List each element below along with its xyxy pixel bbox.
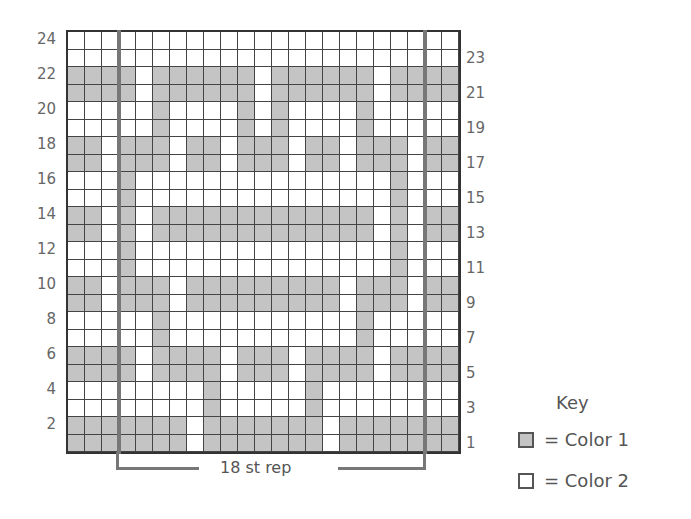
chart-cell <box>85 312 102 330</box>
chart-cell <box>323 365 340 383</box>
chart-cell <box>204 50 221 68</box>
chart-cell <box>323 400 340 418</box>
chart-cell <box>221 382 238 400</box>
chart-cell <box>306 365 323 383</box>
chart-cell <box>340 172 357 190</box>
chart-cell <box>442 417 459 435</box>
row-number-label: 10 <box>22 275 56 293</box>
chart-cell <box>357 295 374 313</box>
chart-cell <box>272 260 289 278</box>
chart-cell <box>170 347 187 365</box>
chart-cell <box>391 50 408 68</box>
chart-cell <box>391 435 408 453</box>
chart-cell <box>187 190 204 208</box>
chart-cell <box>136 120 153 138</box>
chart-cell <box>119 417 136 435</box>
chart-cell <box>306 137 323 155</box>
chart-cell <box>272 120 289 138</box>
chart-cell <box>68 102 85 120</box>
row-number-label: 21 <box>466 84 500 102</box>
chart-cell <box>170 120 187 138</box>
chart-cell <box>425 207 442 225</box>
chart-cell <box>425 190 442 208</box>
chart-cell <box>170 50 187 68</box>
chart-cell <box>187 172 204 190</box>
chart-cell <box>119 277 136 295</box>
chart-cell <box>357 137 374 155</box>
chart-cell <box>289 277 306 295</box>
chart-cell <box>289 207 306 225</box>
chart-cell <box>204 102 221 120</box>
chart-cell <box>170 435 187 453</box>
chart-cell <box>357 242 374 260</box>
chart-cell <box>136 85 153 103</box>
chart-cell <box>255 330 272 348</box>
chart-cell <box>136 400 153 418</box>
chart-cell <box>289 400 306 418</box>
chart-cell <box>68 207 85 225</box>
chart-cell <box>119 172 136 190</box>
chart-cell <box>153 225 170 243</box>
chart-cell <box>323 225 340 243</box>
chart-cell <box>136 207 153 225</box>
chart-cell <box>85 365 102 383</box>
chart-cell <box>323 155 340 173</box>
chart-cell <box>119 190 136 208</box>
chart-cell <box>323 347 340 365</box>
chart-cell <box>221 347 238 365</box>
chart-cell <box>374 400 391 418</box>
chart-cell <box>221 102 238 120</box>
chart-cell <box>221 207 238 225</box>
chart-cell <box>289 435 306 453</box>
chart-cell <box>374 365 391 383</box>
chart-cell <box>153 347 170 365</box>
chart-cell <box>442 137 459 155</box>
chart-cell <box>221 225 238 243</box>
chart-cell <box>306 347 323 365</box>
chart-cell <box>289 137 306 155</box>
chart-cell <box>238 295 255 313</box>
chart-cell <box>442 400 459 418</box>
chart-cell <box>255 120 272 138</box>
chart-cell <box>442 312 459 330</box>
chart-cell <box>68 190 85 208</box>
chart-cell <box>340 67 357 85</box>
chart-cell <box>289 417 306 435</box>
chart-cell <box>153 312 170 330</box>
chart-cell <box>272 50 289 68</box>
chart-cell <box>272 277 289 295</box>
chart-cell <box>136 260 153 278</box>
chart-cell <box>442 155 459 173</box>
chart-cell <box>204 312 221 330</box>
chart-cell <box>119 295 136 313</box>
chart-cell <box>238 137 255 155</box>
chart-cell <box>170 190 187 208</box>
chart-cell <box>442 382 459 400</box>
chart-cell <box>306 277 323 295</box>
chart-cell <box>187 102 204 120</box>
chart-cell <box>68 312 85 330</box>
white-square-icon <box>518 473 534 489</box>
chart-cell <box>323 190 340 208</box>
chart-cell <box>357 85 374 103</box>
row-number-label: 23 <box>466 49 500 67</box>
chart-cell <box>136 295 153 313</box>
chart-cell <box>153 67 170 85</box>
chart-cell <box>170 365 187 383</box>
chart-cell <box>306 85 323 103</box>
chart-cell <box>153 172 170 190</box>
chart-cell <box>221 330 238 348</box>
chart-cell <box>255 365 272 383</box>
chart-cell <box>340 225 357 243</box>
chart-cell <box>357 207 374 225</box>
chart-cell <box>289 365 306 383</box>
chart-cell <box>289 347 306 365</box>
chart-cell <box>323 120 340 138</box>
chart-cell <box>204 365 221 383</box>
chart-cell <box>289 260 306 278</box>
chart-cell <box>391 155 408 173</box>
chart-cell <box>357 260 374 278</box>
chart-cell <box>391 312 408 330</box>
chart-cell <box>425 137 442 155</box>
chart-cell <box>323 85 340 103</box>
